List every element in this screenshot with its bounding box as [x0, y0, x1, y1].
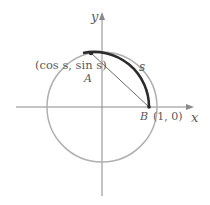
y-axis-label: y — [90, 9, 99, 24]
point-a-coords-label: (cos s, sin s) — [35, 58, 107, 72]
unit-circle-diagram: y x (cos s, sin s) A s B (1, 0) — [0, 0, 210, 205]
y-axis — [99, 12, 105, 196]
y-axis-arrow-icon — [99, 12, 105, 20]
point-a-dot — [89, 51, 93, 55]
point-a-label: A — [83, 72, 92, 85]
point-b-coords-label: (1, 0) — [153, 110, 183, 123]
point-b-dot — [147, 105, 151, 109]
arc-s-label: s — [139, 60, 145, 74]
point-b-label: B — [139, 110, 148, 123]
x-axis-label: x — [191, 110, 199, 125]
